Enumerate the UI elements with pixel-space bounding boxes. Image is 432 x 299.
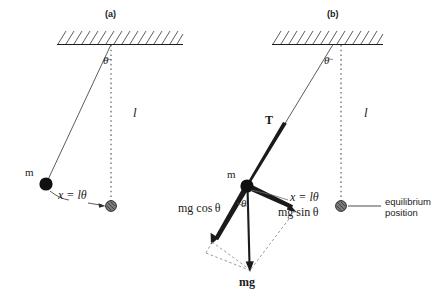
tension-vector [245,122,287,188]
angle-label-bob: θ [241,197,246,209]
weight-label: mg [239,275,255,290]
equilibrium-marker-b [336,201,347,212]
mg-sin-theta-label: mg sin θ [278,205,319,220]
panel-a-tag: (a) [105,9,116,19]
ceiling-a [57,31,183,45]
equilibrium-line-2: position [385,207,431,218]
bob-b [240,179,253,192]
length-label-a: l [133,105,137,121]
pendulum-figure [0,0,432,299]
tension-label: T [265,113,273,128]
ceiling-b [272,31,383,45]
panel-b [206,31,383,272]
angle-label-a: θ [103,54,108,66]
arc-length-label-b: x = lθ [290,190,319,205]
equilibrium-marker-a [106,201,117,212]
panel-a [39,31,183,211]
mass-label-a: m [25,166,34,178]
weight-vector [246,187,254,272]
panel-b-tag: (b) [327,9,339,19]
arc-length-label-a: x = lθ [58,188,87,203]
bob-a [39,177,52,190]
equilibrium-line-1: equilibrium [385,196,431,207]
length-label-b: l [364,105,368,121]
equilibrium-position-label: equilibrium position [385,196,431,218]
string-a [46,45,111,185]
mass-label-b: m [227,168,236,180]
angle-label-b: θ [324,54,329,66]
mg-cos-theta-label: mg cos θ [178,201,220,216]
